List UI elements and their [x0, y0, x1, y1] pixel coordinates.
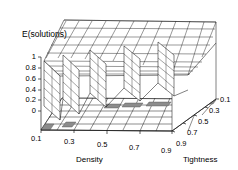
y-axis-title: Tightness	[183, 155, 217, 164]
y-tick-label-2: 0.5	[198, 117, 208, 126]
y-tick-label-1: 0.3	[209, 106, 219, 115]
surface-plot-figure: E(solutions) 1 0.8 0.6 0.4 0.2 0 0.1 0.3…	[0, 0, 238, 170]
y-tick-label-0: 0.1	[220, 95, 230, 104]
z-tick-label-2: 0.6	[20, 74, 36, 83]
z-axis	[38, 57, 41, 130]
z-tick-label-4: 0.2	[20, 95, 36, 104]
z-tick-label-5: 0	[25, 106, 36, 115]
x-tick-label-0: 0.1	[31, 134, 41, 143]
y-tick-label-3: 0.7	[187, 128, 197, 137]
z-tick-label-0: 1	[25, 52, 36, 61]
y-tick-label-4: 0.9	[176, 139, 186, 148]
x-axis-title: Density	[76, 155, 103, 164]
z-tick-label-3: 0.4	[20, 85, 36, 94]
x-tick-label-3: 0.7	[129, 143, 139, 152]
z-tick-label-1: 0.8	[20, 63, 36, 72]
x-tick-label-1: 0.3	[64, 137, 74, 146]
x-axis	[41, 130, 172, 134]
x-tick-label-4: 0.9	[161, 146, 171, 155]
z-axis-label: E(solutions)	[22, 30, 67, 39]
x-tick-label-2: 0.5	[97, 140, 107, 149]
